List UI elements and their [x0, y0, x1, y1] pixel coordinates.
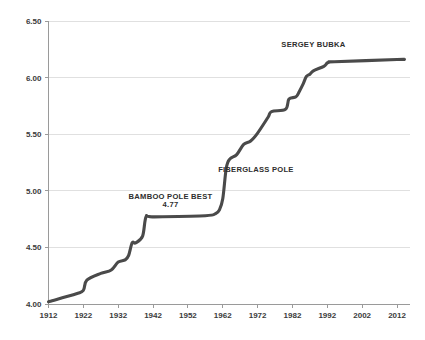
- x-tick-label-2002: 2002: [353, 311, 371, 320]
- y-tick-label-5.00: 5.00: [26, 187, 42, 196]
- y-tick-label-5.50: 5.50: [26, 130, 42, 139]
- series-line-0: [49, 59, 405, 301]
- x-tick-label-1952: 1952: [179, 311, 197, 320]
- x-tick-label-1992: 1992: [318, 311, 336, 320]
- x-tick-label-1932: 1932: [109, 311, 127, 320]
- y-tick-label-4.50: 4.50: [26, 243, 42, 252]
- x-tick-label-1972: 1972: [249, 311, 267, 320]
- bamboo-value: 4.77: [163, 200, 179, 209]
- x-tick-label-1912: 1912: [40, 311, 58, 320]
- x-tick-label-1962: 1962: [214, 311, 232, 320]
- x-tick-label-1982: 1982: [284, 311, 302, 320]
- x-tick-label-2012: 2012: [388, 311, 406, 320]
- y-tick-label-6.50: 6.50: [26, 17, 42, 26]
- fiberglass-annotation: FIBERGLASS POLE: [218, 165, 293, 174]
- annotations-group: BAMBOO POLE BEST4.77FIBERGLASS POLESERGE…: [129, 40, 346, 209]
- pole-vault-record-chart: 6.506.005.505.004.504.00 191219221932194…: [0, 0, 425, 340]
- y-tick-labels-group: 6.506.005.505.004.504.00: [26, 17, 42, 309]
- data-series-group: [49, 59, 405, 301]
- y-tick-label-4.00: 4.00: [26, 300, 42, 309]
- x-tick-labels-group: 1912192219321942195219621972198219922002…: [40, 311, 407, 320]
- chart-canvas: 6.506.005.505.004.504.00 191219221932194…: [0, 0, 425, 340]
- bubka-annotation: SERGEY BUBKA: [281, 40, 345, 49]
- y-axis-group: [45, 21, 49, 304]
- x-axis-group: [49, 304, 411, 308]
- y-tick-label-6.00: 6.00: [26, 74, 42, 83]
- x-tick-label-1942: 1942: [144, 311, 162, 320]
- x-tick-label-1922: 1922: [74, 311, 92, 320]
